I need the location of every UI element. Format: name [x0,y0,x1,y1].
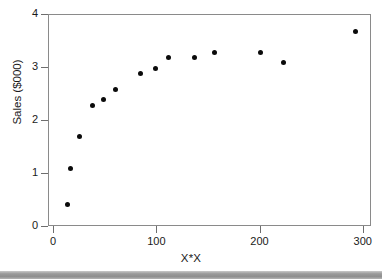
y-tick-label: 1 [0,167,38,178]
data-point [113,87,118,92]
data-point [212,50,217,55]
y-tick-mark [41,14,48,15]
x-axis-title: X*X [0,252,382,264]
y-tick-mark [41,120,48,121]
data-point [90,103,95,108]
x-tick-label: 0 [33,236,73,247]
x-tick-label: 300 [343,236,382,247]
x-tick-mark [363,226,364,233]
y-tick-mark [41,173,48,174]
data-point [166,55,171,60]
y-tick-mark [41,226,48,227]
data-point [65,202,70,207]
data-point [138,71,143,76]
data-point [101,97,106,102]
data-point [192,55,197,60]
data-point [353,29,358,34]
data-point [153,66,158,71]
scatter-plot-figure: 01234 0100200300 Sales ($000) X*X [0,0,382,279]
data-point [77,134,82,139]
x-tick-label: 100 [136,236,176,247]
data-point [258,50,263,55]
data-point [281,60,286,65]
y-tick-label: 0 [0,220,38,231]
x-tick-mark [53,226,54,233]
x-tick-label: 200 [240,236,280,247]
x-tick-mark [156,226,157,233]
x-tick-mark [260,226,261,233]
data-point [68,166,73,171]
y-tick-mark [41,67,48,68]
y-tick-label: 4 [0,8,38,19]
y-axis-title: Sales ($000) [11,27,23,157]
plot-area [48,14,371,226]
bottom-gray-bar [0,271,382,279]
